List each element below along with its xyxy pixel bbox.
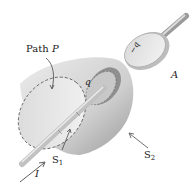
capacitor-diagram [0,0,191,190]
plate-q-label: q [85,78,91,87]
s2-label: S2 [144,150,155,162]
s1-label: S1 [52,155,63,167]
s2-arrow [130,134,148,148]
plate-a-label: A [171,70,178,80]
path-label: Path P [26,44,59,54]
current-label: I [35,169,39,179]
